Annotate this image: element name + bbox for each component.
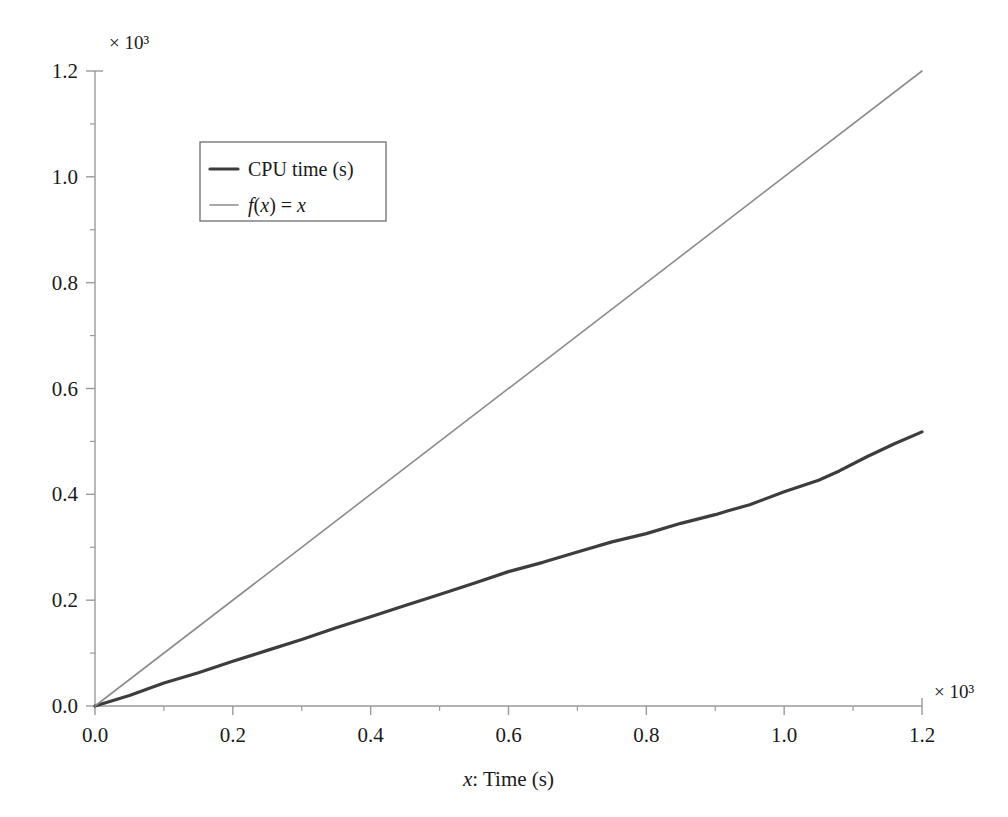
y-tick-label: 1.2 <box>52 59 78 83</box>
legend-label-reference: f(x) = x <box>248 194 306 217</box>
y-tick-label: 0.8 <box>52 271 78 295</box>
x-tick-label: 0.6 <box>495 723 521 747</box>
legend-fn-eq: ) = <box>269 194 297 217</box>
x-tick-label: 0.2 <box>220 723 246 747</box>
x-tick-label: 1.2 <box>909 723 935 747</box>
chart-background <box>0 0 1008 817</box>
y-tick-label: 1.0 <box>52 165 78 189</box>
x-axis-exponent-label: × 10³ <box>934 681 974 702</box>
legend-fn-rhs: x <box>296 194 306 216</box>
legend-fn-arg: x <box>259 194 269 216</box>
line-chart: 0.00.20.40.60.81.01.2 0.00.20.40.60.81.0… <box>0 0 1008 817</box>
x-axis-title: x: Time (s) <box>462 767 554 791</box>
x-tick-label: 0.8 <box>633 723 659 747</box>
x-tick-label: 0.4 <box>358 723 385 747</box>
x-tick-label: 1.0 <box>771 723 797 747</box>
y-axis-exponent-label: × 10³ <box>109 32 149 53</box>
chart-legend: CPU time (s)f(x) = x <box>200 142 386 221</box>
y-tick-label: 0.4 <box>52 482 79 506</box>
y-tick-label: 0.6 <box>52 377 78 401</box>
y-tick-label: 0.2 <box>52 588 78 612</box>
y-tick-label: 0.0 <box>52 694 78 718</box>
legend-label-cpu-time: CPU time (s) <box>248 158 354 181</box>
x-tick-label: 0.0 <box>82 723 108 747</box>
x-axis-title-suffix: : Time (s) <box>472 767 554 791</box>
chart-figure: 0.00.20.40.60.81.01.2 0.00.20.40.60.81.0… <box>0 0 1008 817</box>
